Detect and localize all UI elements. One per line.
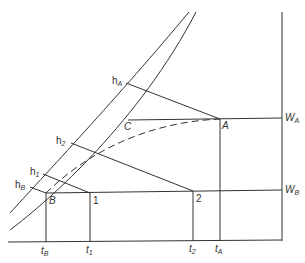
label-t1: t1 (86, 245, 93, 258)
label-h1: h1 (30, 167, 39, 180)
point-1-label: 1 (93, 196, 99, 206)
hb-enthalpy-line (30, 187, 46, 193)
saturation-curve (10, 12, 196, 230)
label-wb: WB (285, 185, 299, 198)
outer-curve (10, 12, 189, 213)
wb-line (46, 190, 282, 193)
label-hb: hB (15, 180, 25, 193)
process-curve (46, 119, 220, 193)
label-wa: WA (285, 113, 299, 126)
point-a-label: A (222, 121, 229, 131)
label-t2: t2 (189, 244, 196, 257)
label-tb: tB (41, 246, 48, 259)
ha-enthalpy-line (126, 83, 220, 119)
label-h2: h2 (56, 136, 65, 149)
h1-enthalpy-line (43, 174, 90, 193)
h2-enthalpy-line (71, 143, 193, 191)
label-ta: tA (215, 244, 222, 257)
diagram-canvas (0, 0, 305, 263)
point-2-label: 2 (196, 194, 202, 204)
point-c-label: C (124, 122, 131, 132)
temperature-axis (8, 240, 282, 242)
point-b-label: B (49, 196, 56, 206)
label-ha: hA (112, 76, 122, 89)
